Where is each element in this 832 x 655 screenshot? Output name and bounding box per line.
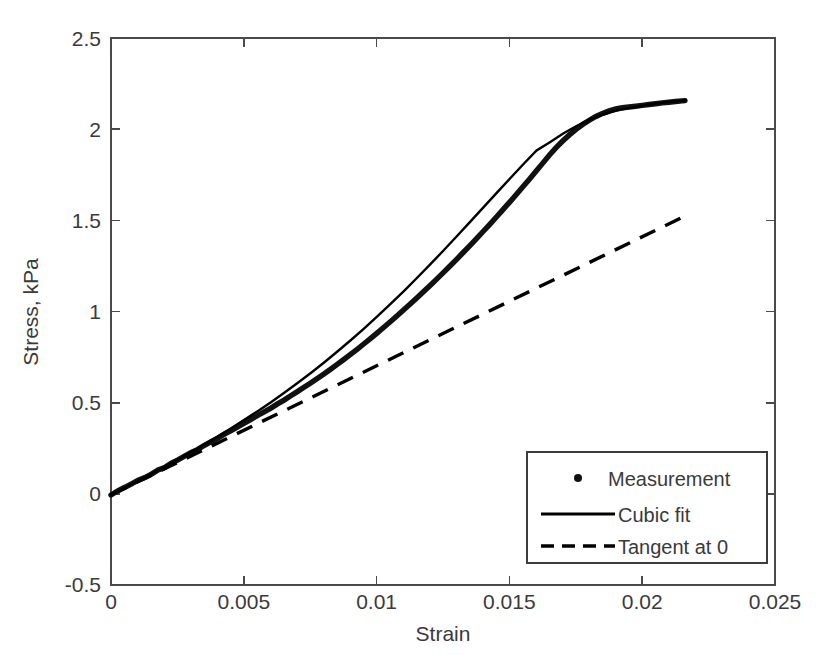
- y-tick-label: 0.5: [72, 391, 101, 414]
- x-axis-title: Strain: [416, 622, 471, 645]
- y-tick-label: 1.5: [72, 209, 101, 232]
- chart-legend[interactable]: Measurement Cubic fit Tangent at 0: [527, 452, 767, 563]
- x-axis-tick-labels: 0 0.005 0.01 0.015 0.02 0.025: [105, 590, 801, 613]
- legend-label-tangent: Tangent at 0: [618, 536, 728, 558]
- x-tick-label: 0.005: [218, 590, 271, 613]
- x-tick-label: 0: [105, 590, 117, 613]
- figure-container: 2.5 2 1.5 1 0.5 0 -0.5 0 0.005 0.01 0.01…: [0, 0, 832, 655]
- x-tick-label: 0.01: [356, 590, 397, 613]
- y-tick-label: 2.5: [72, 27, 101, 50]
- y-tick-label: 2: [89, 118, 101, 141]
- y-axis-title: Stress, kPa: [19, 258, 42, 366]
- dot-marker-icon: [574, 474, 582, 482]
- y-tick-label: 1: [89, 300, 101, 323]
- y-tick-label: 0: [89, 482, 101, 505]
- x-tick-label: 0.025: [749, 590, 802, 613]
- y-axis-tick-labels: 2.5 2 1.5 1 0.5 0 -0.5: [65, 27, 101, 596]
- stress-strain-chart: 2.5 2 1.5 1 0.5 0 -0.5 0 0.005 0.01 0.01…: [0, 0, 832, 655]
- series-cubic-fit: [111, 101, 685, 495]
- data-series-group: [111, 101, 685, 496]
- legend-label-cubic-fit: Cubic fit: [618, 504, 691, 526]
- x-tick-label: 0.02: [622, 590, 663, 613]
- x-tick-label: 0.015: [483, 590, 536, 613]
- legend-label-measurement: Measurement: [608, 468, 731, 490]
- y-tick-label: -0.5: [65, 573, 101, 596]
